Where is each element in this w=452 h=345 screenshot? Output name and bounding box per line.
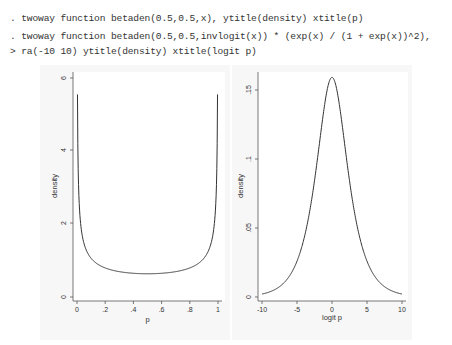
left-x-tick-08: .8 [187,306,193,313]
right-y-tick-01: .1 [245,156,252,162]
left-y-tick-2: 2 [60,221,67,225]
right-y-axis-title: density [236,174,245,198]
right-y-tick-005: .05 [245,223,252,233]
left-y-tick-4: 4 [60,148,67,152]
left-plot-area [73,72,225,301]
right-x-axis-title: logit p [322,313,342,322]
right-x-tick-5: 5 [365,306,369,313]
right-x-tick-neg10: -10 [257,306,267,313]
left-y-tick-6: 6 [60,76,67,80]
right-x-tick-0: 0 [330,306,334,313]
right-x-tick-10: 10 [398,306,406,313]
left-x-tick-1: 1 [216,306,220,313]
left-x-tick-02: .2 [102,306,108,313]
left-x-tick-04: .4 [130,306,136,313]
left-x-tick-06: .6 [159,306,165,313]
right-plot-area [258,72,408,301]
left-x-tick-0: 0 [75,306,79,313]
right-x-tick-neg5: -5 [294,306,300,313]
left-y-tick-0: 0 [60,295,67,299]
right-y-tick-015: .15 [245,85,252,95]
left-x-axis-title: p [145,315,149,324]
right-y-tick-0: 0 [245,295,252,299]
left-y-axis-title: density [50,174,59,198]
charts-canvas: 0 2 4 6 density 0 .2 .4 .6 .8 1 p [0,0,452,345]
